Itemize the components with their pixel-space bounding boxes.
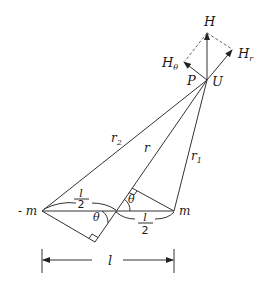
- right-angle-mark-left: [89, 234, 98, 239]
- r-label: r: [144, 141, 151, 155]
- u-label: U: [212, 74, 224, 89]
- half-bracket-left-b: [92, 203, 116, 210]
- half-left-den: 2: [78, 198, 85, 211]
- perpendicular-left: [42, 211, 95, 242]
- p-label: P: [186, 73, 196, 88]
- htheta-label: Hθ: [161, 55, 178, 72]
- full-length-label: l: [108, 253, 112, 268]
- theta-arc-left: [102, 211, 108, 223]
- perpendicular-right: [132, 188, 174, 211]
- h-label: H: [203, 14, 216, 29]
- half-right-num: l: [143, 211, 147, 224]
- theta-left-label: θ: [93, 211, 100, 224]
- half-bracket-right-a: [116, 212, 135, 219]
- dipole-diagram: H Hθ Hr P U r2 r r1 - m m l 2 l 2 θ θ l: [0, 0, 268, 292]
- positive-charge-label: m: [179, 204, 190, 218]
- r1-line: [174, 80, 207, 211]
- theta-right-label: θ: [128, 193, 135, 206]
- half-bracket-right-b: [155, 212, 174, 219]
- r2-label: r2: [111, 131, 122, 147]
- dashed-parallelogram-right: [207, 33, 232, 49]
- negative-charge-label: - m: [18, 204, 37, 218]
- dashed-parallelogram-left: [185, 33, 207, 61]
- r2-line: [42, 80, 207, 211]
- half-right-den: 2: [142, 224, 149, 237]
- hr-label: Hr: [237, 46, 254, 63]
- r1-label: r1: [191, 149, 202, 165]
